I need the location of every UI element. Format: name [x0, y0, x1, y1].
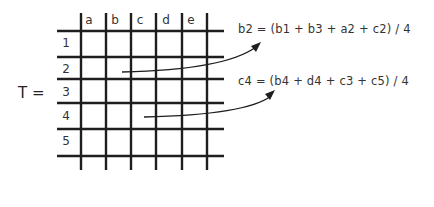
column-header-a: a — [85, 14, 92, 26]
row-header-1: 1 — [62, 37, 70, 49]
column-header-b: b — [111, 14, 119, 26]
row-header-3: 3 — [62, 86, 70, 98]
row-header-4: 4 — [62, 110, 70, 122]
vertical-lines — [81, 13, 207, 170]
row-header-5: 5 — [62, 135, 70, 147]
grid-averaging-diagram: T = a b c d e 1 2 3 4 5 b2 = (b1 + b3 + … — [0, 0, 434, 207]
column-header-e: e — [187, 14, 194, 26]
matrix-name-label: T = — [18, 86, 45, 101]
column-header-c: c — [137, 14, 144, 26]
row-header-2: 2 — [62, 63, 70, 75]
formula-b2: b2 = (b1 + b3 + a2 + c2) / 4 — [238, 23, 411, 35]
column-header-d: d — [162, 14, 170, 26]
arrow-b2 — [122, 47, 256, 72]
formula-c4: c4 = (b4 + d4 + c3 + c5) / 4 — [238, 75, 409, 87]
arrowhead-icon — [251, 42, 261, 52]
